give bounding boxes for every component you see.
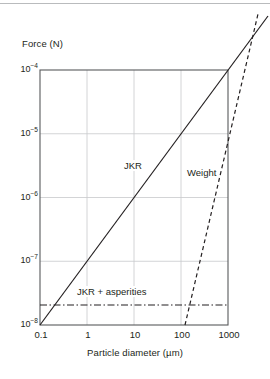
x-tick-label-1000: 1000: [204, 329, 254, 340]
y-tick-label-1e-7: 10−7: [0, 255, 38, 265]
y-tick-label-1e-5: 10−5: [0, 128, 38, 138]
x-axis-label: Particle diameter (µm): [0, 347, 270, 358]
plot-area: [0, 0, 270, 379]
series-line-jkr: [40, 16, 268, 325]
series-label-weight: Weight: [186, 167, 217, 178]
x-tick-label-100: 100: [157, 329, 207, 340]
series-label-jkr: JKR: [123, 160, 143, 171]
y-tick-label-1e-8: 10−8: [0, 319, 38, 329]
figure-container: Force (N): [0, 0, 270, 379]
x-tick-label-10: 10: [110, 329, 160, 340]
y-tick-label-1e-6: 10−6: [0, 192, 38, 202]
x-tick-label-1: 1: [63, 329, 113, 340]
y-tick-label-1e-4: 10−4: [0, 64, 38, 74]
x-tick-label-0-1: 0.1: [16, 329, 66, 340]
series-label-jkr-asperities: JKR + asperities: [76, 286, 147, 297]
